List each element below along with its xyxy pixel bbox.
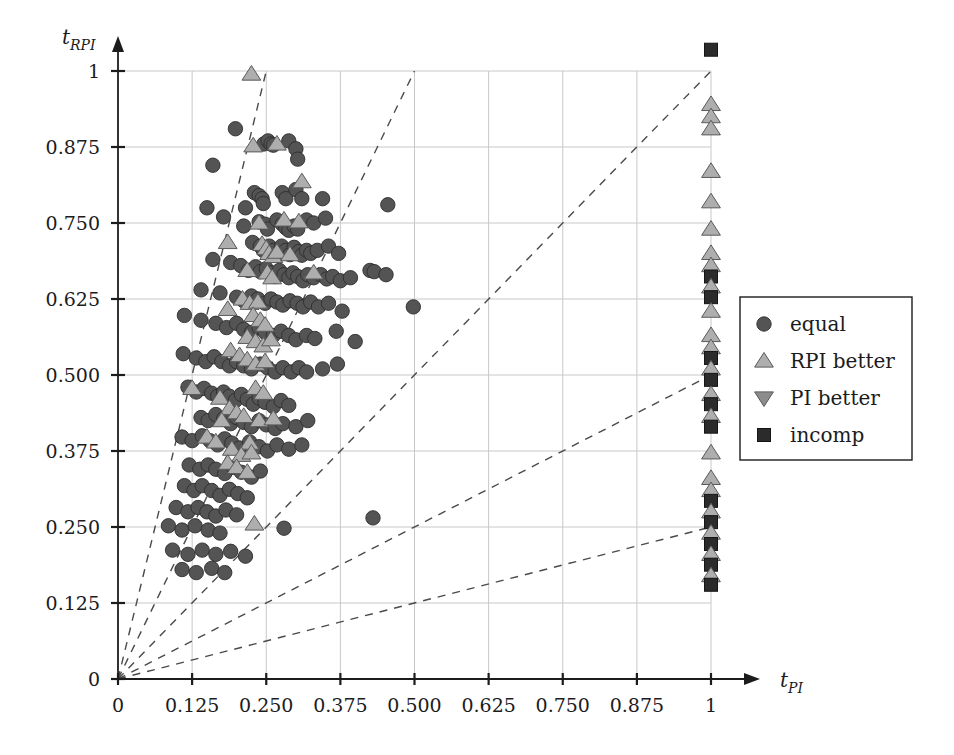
boundary-point: [705, 373, 718, 386]
data-point: [200, 201, 214, 215]
data-point: [213, 526, 227, 540]
legend-label: RPI better: [790, 349, 895, 373]
boundary-point: [705, 578, 718, 591]
data-point: [381, 198, 395, 212]
data-point: [218, 234, 237, 249]
data-point: [292, 173, 311, 188]
x-tick-label: 0.250: [239, 694, 293, 716]
x-tick-label: 0.750: [536, 694, 590, 716]
y-tick-label: 0.625: [46, 288, 100, 310]
data-point: [216, 210, 230, 224]
data-point: [290, 152, 304, 166]
boundary-point: [702, 193, 721, 208]
axis-titles: tPItRPI: [62, 25, 803, 696]
data-point: [161, 519, 175, 533]
data-point: [213, 286, 227, 300]
data-point: [194, 313, 208, 327]
data-point: [218, 565, 232, 579]
y-axis-title: tRPI: [62, 25, 96, 53]
y-axis-title-sub: RPI: [69, 37, 96, 53]
y-tick-label: 1: [88, 60, 100, 82]
data-point: [238, 549, 252, 563]
legend-label: equal: [790, 312, 846, 336]
x-tick-label: 0.625: [461, 694, 515, 716]
data-point: [335, 304, 349, 318]
x-axis-arrow: [744, 673, 760, 685]
boundary-column: [702, 43, 721, 591]
series-equal: [161, 122, 420, 580]
data-point: [209, 547, 223, 561]
boundary-point: [705, 291, 718, 304]
x-tick-label: 0.500: [387, 694, 441, 716]
data-point: [175, 562, 189, 576]
boundary-point: [705, 420, 718, 433]
data-point: [299, 365, 313, 379]
data-point: [228, 122, 242, 136]
x-axis-title-sub: PI: [787, 680, 803, 696]
y-axis-arrow: [112, 36, 124, 52]
data-point: [176, 347, 190, 361]
data-point: [165, 543, 179, 557]
x-axis-title: tPI: [780, 668, 803, 696]
data-point: [194, 283, 208, 297]
data-point: [189, 565, 203, 579]
boundary-point: [702, 444, 721, 459]
data-point: [301, 413, 315, 427]
data-point: [318, 211, 332, 225]
x-tick-label: 0: [112, 694, 124, 716]
data-point: [204, 561, 218, 575]
x-tick-label: 0.125: [165, 694, 219, 716]
data-point: [379, 267, 393, 281]
boundary-point: [702, 163, 721, 178]
data-point: [195, 543, 209, 557]
data-point: [295, 191, 309, 205]
legend-marker-square: [758, 429, 771, 442]
data-point: [181, 547, 195, 561]
data-point: [315, 191, 329, 205]
boundary-point: [705, 43, 718, 56]
data-point: [177, 308, 191, 322]
legend: equalRPI betterPI betterincomp: [740, 297, 912, 460]
x-tick-label: 0.375: [313, 694, 367, 716]
y-tick-label: 0.750: [46, 212, 100, 234]
data-point: [366, 511, 380, 525]
data-point: [295, 438, 309, 452]
data-point: [282, 398, 296, 412]
legend-marker-circle: [757, 317, 771, 331]
data-point: [406, 300, 420, 314]
data-point: [229, 508, 243, 522]
data-point: [206, 252, 220, 266]
scatter-plot-figure: 00.1250.2500.3750.5000.6250.7500.875100.…: [0, 0, 954, 755]
y-tick-label: 0.500: [46, 364, 100, 386]
boundary-point: [702, 303, 721, 318]
data-point: [206, 158, 220, 172]
data-point: [321, 296, 335, 310]
data-point: [240, 491, 254, 505]
x-tick-label: 0.875: [610, 694, 664, 716]
data-point: [329, 324, 343, 338]
data-point: [330, 357, 344, 371]
y-tick-label: 0.125: [46, 592, 100, 614]
data-point: [343, 271, 357, 285]
data-point: [175, 523, 189, 537]
data-point: [277, 521, 291, 535]
data-point: [238, 201, 252, 215]
data-point: [315, 362, 329, 376]
data-point: [237, 219, 251, 233]
tick-marks: 00.1250.2500.3750.5000.6250.7500.875100.…: [46, 60, 717, 716]
data-point: [256, 196, 270, 210]
legend-label: incomp: [790, 423, 864, 447]
y-tick-label: 0: [88, 668, 100, 690]
x-tick-label: 1: [705, 694, 717, 716]
data-point: [188, 519, 202, 533]
y-tick-label: 0.875: [46, 136, 100, 158]
data-point: [282, 442, 296, 456]
data-point: [331, 246, 345, 260]
data-point: [242, 66, 261, 81]
plot-canvas: 00.1250.2500.3750.5000.6250.7500.875100.…: [0, 0, 954, 755]
data-point: [348, 334, 362, 348]
y-tick-label: 0.250: [46, 516, 100, 538]
data-point: [223, 544, 237, 558]
data-point: [308, 331, 322, 345]
data-point: [245, 515, 264, 530]
